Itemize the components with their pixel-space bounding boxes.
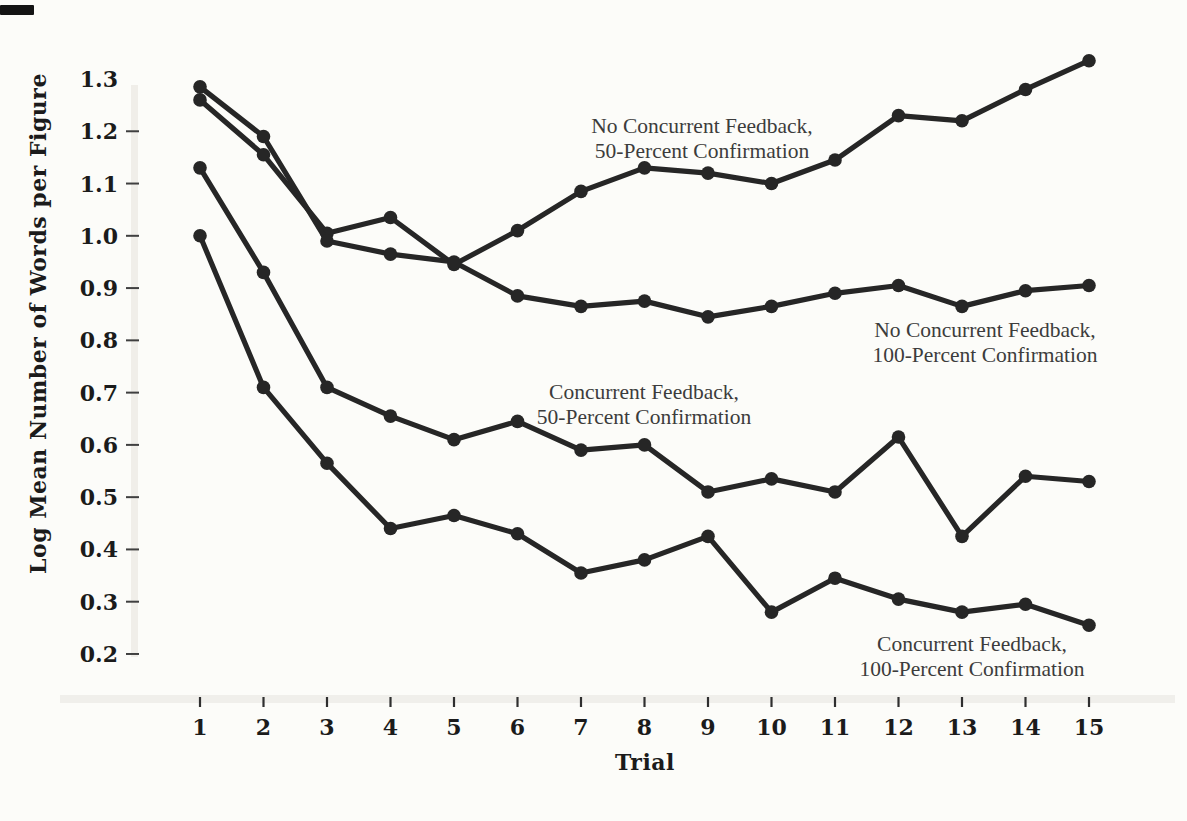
y-tick-label: 0.4 xyxy=(80,536,118,562)
data-point xyxy=(1019,598,1033,612)
x-axis-title: Trial xyxy=(545,749,745,775)
data-point xyxy=(701,310,715,324)
data-point xyxy=(701,530,715,544)
data-point xyxy=(1082,618,1096,632)
data-point xyxy=(257,266,271,280)
y-tick-label: 0.8 xyxy=(80,327,118,353)
data-point xyxy=(193,229,207,243)
x-tick-label: 14 xyxy=(1010,714,1041,740)
x-tick-label: 8 xyxy=(637,714,652,740)
data-point xyxy=(828,485,842,499)
data-point xyxy=(257,148,271,162)
series-annotation-1: No Concurrent Feedback,50-Percent Confir… xyxy=(591,114,813,163)
data-point xyxy=(447,255,461,269)
data-point xyxy=(320,456,334,470)
data-point xyxy=(574,566,588,580)
x-tick-label: 15 xyxy=(1074,714,1105,740)
y-tick-label: 1.1 xyxy=(80,171,118,197)
series-line-4 xyxy=(200,236,1089,625)
scan-streak-horizontal xyxy=(60,695,1175,703)
data-point xyxy=(1082,54,1096,68)
data-point xyxy=(638,294,652,308)
data-point xyxy=(1019,469,1033,483)
data-point xyxy=(574,300,588,314)
x-tick-label: 2 xyxy=(256,714,271,740)
data-point xyxy=(320,234,334,248)
data-point xyxy=(384,247,398,261)
data-point xyxy=(828,571,842,585)
scanned-figure-page: Log Mean Number of Words per Figure 1.31… xyxy=(0,0,1187,821)
y-tick-label: 1.3 xyxy=(80,66,118,92)
data-point xyxy=(511,527,525,541)
x-tick-label: 3 xyxy=(319,714,334,740)
data-point xyxy=(701,166,715,180)
series-annotation-2: No Concurrent Feedback,100-Percent Confi… xyxy=(872,318,1097,367)
line-chart: 1.31.21.11.00.90.80.70.60.50.40.30.21234… xyxy=(0,0,1187,821)
x-tick-label: 12 xyxy=(883,714,914,740)
data-point xyxy=(574,185,588,199)
x-tick-label: 13 xyxy=(947,714,978,740)
data-point xyxy=(193,93,207,107)
data-point xyxy=(384,211,398,225)
data-point xyxy=(574,443,588,457)
data-point xyxy=(765,300,779,314)
data-point xyxy=(892,279,906,293)
data-point xyxy=(384,409,398,423)
data-point xyxy=(638,553,652,567)
series-annotation-4: Concurrent Feedback,100-Percent Confirma… xyxy=(859,632,1084,681)
data-point xyxy=(955,530,969,544)
data-point xyxy=(638,161,652,175)
y-tick-label: 0.9 xyxy=(80,275,118,301)
data-point xyxy=(447,509,461,523)
x-tick-label: 11 xyxy=(820,714,851,740)
data-point xyxy=(765,472,779,486)
data-point xyxy=(1019,83,1033,97)
data-point xyxy=(257,381,271,395)
data-point xyxy=(955,605,969,619)
data-point xyxy=(765,177,779,191)
data-point xyxy=(511,415,525,429)
y-tick-label: 0.5 xyxy=(80,484,118,510)
y-tick-label: 0.2 xyxy=(80,641,118,667)
data-point xyxy=(765,605,779,619)
data-point xyxy=(1082,279,1096,293)
data-point xyxy=(892,430,906,444)
data-point xyxy=(320,381,334,395)
series-annotation-3: Concurrent Feedback,50-Percent Confirmat… xyxy=(537,380,752,429)
x-tick-label: 6 xyxy=(510,714,525,740)
data-point xyxy=(193,80,207,94)
y-tick-label: 0.7 xyxy=(80,380,118,406)
y-tick-label: 0.6 xyxy=(80,432,118,458)
data-point xyxy=(384,522,398,536)
data-point xyxy=(257,130,271,144)
y-tick-label: 0.3 xyxy=(80,589,118,615)
data-point xyxy=(892,592,906,606)
data-point xyxy=(511,289,525,303)
data-point xyxy=(955,300,969,314)
data-point xyxy=(511,224,525,238)
x-tick-label: 1 xyxy=(192,714,207,740)
data-point xyxy=(447,433,461,447)
x-tick-label: 7 xyxy=(573,714,588,740)
data-point xyxy=(1019,284,1033,298)
x-tick-label: 9 xyxy=(700,714,715,740)
data-point xyxy=(828,153,842,167)
data-point xyxy=(892,109,906,123)
data-point xyxy=(701,485,715,499)
data-point xyxy=(638,438,652,452)
data-point xyxy=(828,287,842,301)
y-tick-label: 1.0 xyxy=(80,223,118,249)
y-tick-label: 1.2 xyxy=(80,118,118,144)
scan-streak-vertical xyxy=(131,85,138,657)
data-point xyxy=(193,161,207,175)
x-tick-label: 5 xyxy=(446,714,461,740)
x-tick-label: 10 xyxy=(756,714,787,740)
x-tick-label: 4 xyxy=(383,714,398,740)
data-point xyxy=(1082,475,1096,489)
data-point xyxy=(955,114,969,128)
